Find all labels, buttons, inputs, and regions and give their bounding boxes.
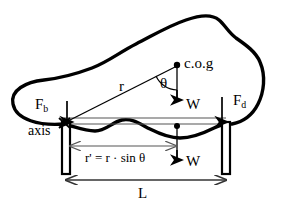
theta-label: θ [160, 76, 167, 91]
axis-label: axis [28, 124, 51, 138]
drag-force-subscript: d [241, 99, 246, 110]
radius-label: r [119, 79, 124, 94]
free-body-diagram: c.o.g Fb Fd W W axis r θ r' = r · sin θ … [0, 0, 290, 208]
right-support-leg [222, 122, 230, 174]
buoyancy-force-subscript: b [43, 103, 48, 114]
left-support-leg [62, 122, 70, 174]
hull-outline [13, 16, 264, 125]
projected-radius-equation-label: r' = r · sin θ [85, 151, 145, 164]
cog-label: c.o.g [184, 56, 213, 71]
drag-force-label: Fd [233, 93, 246, 110]
cog-point-marker [174, 62, 180, 68]
weight-label-upper: W [186, 97, 200, 112]
buoyancy-force-label: Fb [35, 97, 48, 114]
hull-bottom-curve [64, 120, 228, 138]
span-label: L [138, 186, 147, 201]
weight-label-lower: W [186, 154, 200, 169]
